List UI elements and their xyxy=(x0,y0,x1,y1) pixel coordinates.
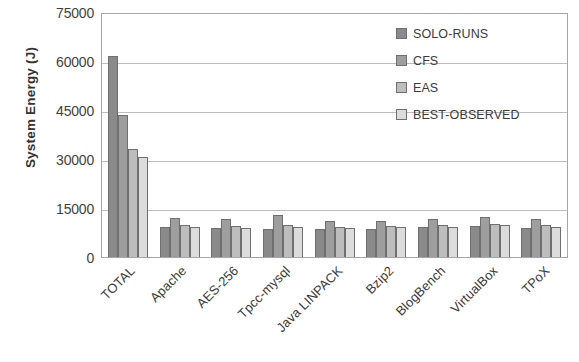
bar-group xyxy=(205,14,257,257)
bar xyxy=(138,157,148,257)
legend-label: EAS xyxy=(413,81,438,95)
legend-label: CFS xyxy=(413,54,438,68)
x-axis-ticks: TOTALApacheAES-256Tpcc-mysqlJava LINPACK… xyxy=(101,259,568,362)
bar-group xyxy=(102,14,154,257)
legend-item: BEST-OBSERVED xyxy=(396,101,576,128)
bar xyxy=(293,227,303,257)
bar xyxy=(283,225,293,257)
bar xyxy=(221,219,231,257)
bar xyxy=(118,115,128,257)
bar xyxy=(170,218,180,257)
x-tick-label: BlogBench xyxy=(393,263,449,319)
bar xyxy=(366,229,376,257)
bar xyxy=(315,229,325,257)
bar xyxy=(180,225,190,257)
bar xyxy=(480,217,490,258)
x-tick-label: VirtualBox xyxy=(448,263,501,316)
bar xyxy=(335,227,345,257)
legend: SOLO-RUNSCFSEASBEST-OBSERVED xyxy=(396,20,576,128)
bar-group xyxy=(154,14,206,257)
bar xyxy=(160,227,170,257)
bar xyxy=(190,227,200,257)
legend-swatch-icon xyxy=(396,28,407,39)
bar xyxy=(108,56,118,257)
legend-swatch-icon xyxy=(396,109,407,120)
bar xyxy=(231,226,241,257)
bar xyxy=(428,219,438,257)
bar xyxy=(273,215,283,257)
legend-label: SOLO-RUNS xyxy=(413,27,488,41)
bar xyxy=(263,229,273,257)
y-axis-ticks: 01500030000450006000075000 xyxy=(18,0,94,362)
bar xyxy=(325,221,335,257)
bar xyxy=(376,221,386,257)
bar xyxy=(345,228,355,257)
x-tick-label: Bzip2 xyxy=(363,263,397,297)
y-tick-label: 60000 xyxy=(22,54,94,70)
y-tick-label: 0 xyxy=(22,250,94,266)
y-tick-label: 75000 xyxy=(22,5,94,21)
legend-item: CFS xyxy=(396,47,576,74)
bar xyxy=(541,225,551,257)
bar xyxy=(438,225,448,257)
legend-item: SOLO-RUNS xyxy=(396,20,576,47)
legend-item: EAS xyxy=(396,74,576,101)
bar-chart: System Energy (J) 0150003000045000600007… xyxy=(0,0,579,362)
y-tick-label: 45000 xyxy=(22,103,94,119)
x-tick-label: AES-256 xyxy=(193,263,241,311)
bar xyxy=(386,226,396,257)
bar xyxy=(448,227,458,257)
bar xyxy=(418,227,428,257)
bar xyxy=(490,224,500,257)
x-tick-label: TPoX xyxy=(519,263,553,297)
bar xyxy=(470,226,480,257)
y-tick-label: 30000 xyxy=(22,152,94,168)
bar xyxy=(521,228,531,257)
legend-swatch-icon xyxy=(396,82,407,93)
bar xyxy=(531,219,541,257)
bar xyxy=(241,228,251,257)
bar xyxy=(128,149,138,257)
bar xyxy=(396,227,406,257)
legend-swatch-icon xyxy=(396,55,407,66)
bar xyxy=(500,225,510,257)
x-tick-label: TOTAL xyxy=(98,263,138,303)
legend-label: BEST-OBSERVED xyxy=(413,108,520,122)
y-tick-label: 15000 xyxy=(22,201,94,217)
bar-group xyxy=(257,14,309,257)
bar-group xyxy=(309,14,361,257)
bar xyxy=(211,228,221,257)
bar xyxy=(551,227,561,257)
x-tick-label: Apache xyxy=(147,263,189,305)
